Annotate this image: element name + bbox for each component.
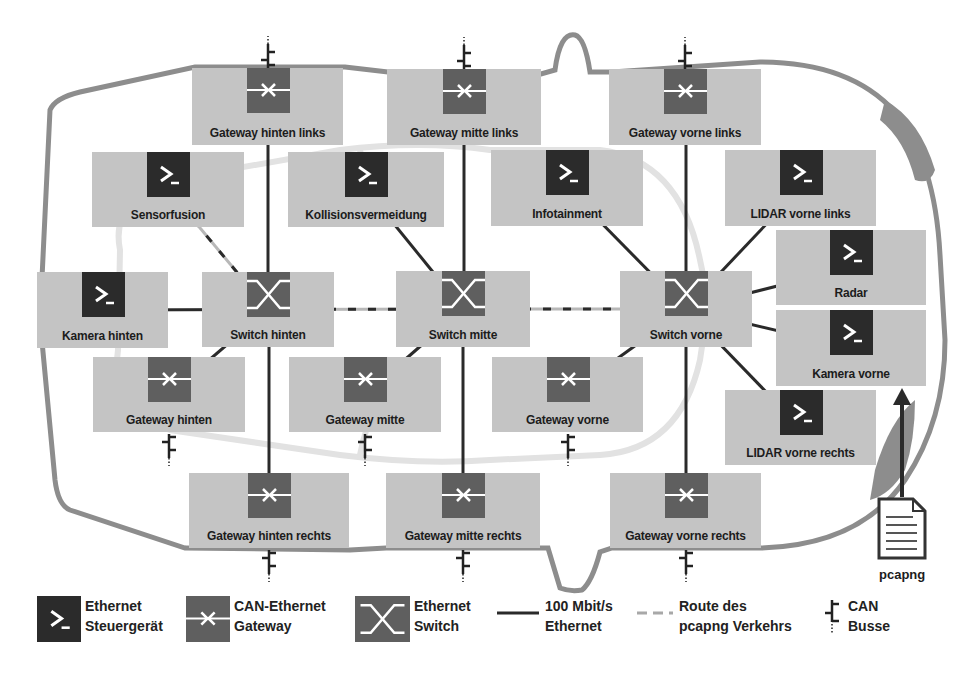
document-icon — [877, 497, 927, 560]
node-label: LIDAR vorne links — [725, 207, 876, 221]
gateway-node-gw-hl[interactable]: Gateway hinten links — [192, 68, 343, 145]
node-label: Gateway hinten rechts — [189, 529, 349, 543]
terminal-icon — [830, 310, 873, 355]
gateway-node-gw-vl[interactable]: Gateway vorne links — [609, 69, 761, 145]
terminal-icon — [780, 390, 823, 435]
gateway-icon — [665, 473, 708, 518]
can-bus-icon — [162, 434, 176, 466]
gateway-node-gw-vr[interactable]: Gateway vorne rechts — [610, 473, 761, 548]
ecu-node-kamera-h[interactable]: Kamera hinten — [37, 272, 168, 348]
node-label: Radar — [776, 286, 926, 300]
legend-item-switch: Ethernet Switch — [355, 596, 471, 642]
gateway-icon — [248, 473, 291, 518]
ecu-node-radar[interactable]: Radar — [776, 230, 926, 305]
can-bus-icon — [457, 37, 471, 69]
gateway-icon — [664, 69, 707, 114]
node-label: Kamera vorne — [776, 367, 926, 381]
terminal-icon — [37, 596, 81, 642]
node-label: Gateway hinten — [93, 413, 245, 427]
legend-item-can: CAN Busse — [820, 596, 890, 640]
node-label: Gateway mitte — [289, 413, 441, 427]
headlight-bottom — [870, 400, 915, 500]
node-label: Sensorfusion — [92, 208, 244, 222]
legend-label: Route des pcapng Verkehrs — [679, 596, 792, 636]
can-bus-icon — [561, 434, 575, 466]
switch-node-switch-m[interactable]: Switch mitte — [396, 271, 530, 347]
node-label: Gateway mitte links — [387, 126, 541, 140]
can-bus-icon — [679, 550, 693, 582]
ecu-node-lidar-vl[interactable]: LIDAR vorne links — [725, 150, 876, 226]
can-bus-icon — [820, 596, 844, 640]
node-label: LIDAR vorne rechts — [725, 446, 876, 460]
ecu-node-infotainment[interactable]: Infotainment — [491, 150, 643, 226]
solid-line-icon — [495, 596, 541, 640]
ecu-node-sensorfusion[interactable]: Sensorfusion — [92, 152, 244, 227]
gateway-node-gw-h[interactable]: Gateway hinten — [93, 357, 245, 432]
legend-item-ecu: Ethernet Steuergerät — [37, 596, 163, 642]
ecu-node-kamera-v[interactable]: Kamera vorne — [776, 310, 926, 386]
terminal-icon — [830, 230, 873, 275]
node-label: Gateway vorne rechts — [610, 529, 761, 543]
terminal-icon — [82, 272, 125, 317]
legend-label: 100 Mbit/s Ethernet — [545, 596, 613, 636]
can-bus-icon — [262, 550, 276, 582]
gateway-icon — [344, 357, 387, 402]
headlight-top — [880, 100, 935, 181]
switch-node-switch-v[interactable]: Switch vorne — [620, 271, 752, 347]
node-label: Infotainment — [491, 207, 643, 221]
switch-icon — [247, 272, 290, 317]
node-label: Gateway vorne — [492, 413, 643, 427]
ecu-node-lidar-vr[interactable]: LIDAR vorne rechts — [725, 390, 876, 465]
gateway-node-gw-m[interactable]: Gateway mitte — [289, 357, 441, 432]
gateway-node-gw-ml[interactable]: Gateway mitte links — [387, 69, 541, 145]
switch-node-switch-h[interactable]: Switch hinten — [202, 272, 334, 347]
node-label: Switch vorne — [620, 328, 752, 342]
node-label: Switch hinten — [202, 328, 334, 342]
legend-label: CAN-Ethernet Gateway — [234, 596, 326, 636]
switch-icon — [665, 271, 708, 316]
gateway-icon — [186, 596, 230, 642]
pcapng-file[interactable] — [877, 497, 927, 560]
switch-icon — [355, 596, 410, 642]
ecu-node-kollision[interactable]: Kollisionsvermeidung — [288, 152, 444, 227]
terminal-icon — [147, 152, 190, 197]
gateway-icon — [442, 473, 485, 518]
legend-label: Ethernet Steuergerät — [85, 596, 163, 636]
node-label: Kollisionsvermeidung — [288, 208, 444, 222]
switch-icon — [442, 271, 485, 316]
can-bus-icon — [456, 550, 470, 582]
node-label: Gateway vorne links — [609, 126, 761, 140]
gateway-icon — [247, 68, 290, 113]
node-label: Gateway hinten links — [192, 126, 343, 140]
can-bus-icon — [261, 36, 275, 68]
node-label: Gateway mitte rechts — [386, 529, 540, 543]
legend-item-route: Route des pcapng Verkehrs — [635, 596, 792, 640]
pcapng-arrow-head — [893, 388, 911, 405]
legend-item-gateway: CAN-Ethernet Gateway — [186, 596, 326, 642]
terminal-icon — [546, 150, 589, 195]
can-bus-icon — [678, 37, 692, 69]
terminal-icon — [345, 152, 388, 197]
gateway-node-gw-v[interactable]: Gateway vorne — [492, 357, 643, 432]
legend-item-ethernet: 100 Mbit/s Ethernet — [495, 596, 613, 640]
node-label: Switch mitte — [396, 328, 530, 342]
gateway-icon — [443, 69, 486, 114]
network-diagram: Gateway hinten linksGateway mitte linksG… — [0, 0, 962, 674]
gateway-node-gw-mr[interactable]: Gateway mitte rechts — [386, 473, 540, 548]
gateway-node-gw-hr[interactable]: Gateway hinten rechts — [189, 473, 349, 548]
gateway-icon — [547, 357, 590, 402]
node-label: Kamera hinten — [37, 329, 168, 343]
terminal-icon — [780, 150, 823, 195]
dashed-line-icon — [635, 596, 675, 640]
legend-label: CAN Busse — [848, 596, 890, 636]
pcapng-label: pcapng — [879, 567, 925, 582]
legend-label: Ethernet Switch — [414, 596, 471, 636]
gateway-icon — [148, 357, 191, 402]
